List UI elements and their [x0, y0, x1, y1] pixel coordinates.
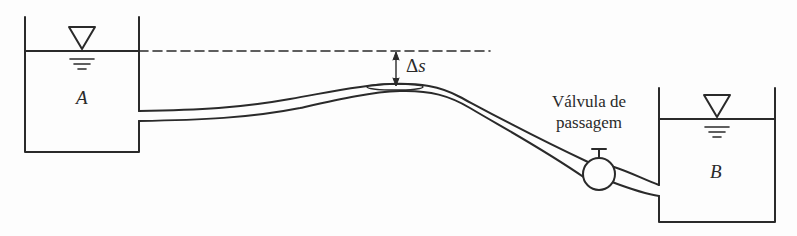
pipe-to-tank-b-upper	[614, 167, 659, 185]
tank-a-label: A	[76, 87, 88, 109]
delta-s-label: Δs	[406, 55, 426, 77]
siphon-diagram: A B Δs Válvula de passagem	[0, 0, 797, 236]
tank-b-wall	[659, 88, 775, 222]
crest-pocket	[367, 84, 423, 90]
tank-a-wall	[25, 17, 139, 152]
delta-symbol: Δ	[406, 55, 418, 76]
arrowhead-up-icon	[393, 52, 399, 60]
s-variable: s	[418, 55, 425, 76]
valve-body	[583, 158, 615, 190]
pipe-lower-wall	[139, 91, 585, 178]
tank-b-label: B	[710, 161, 722, 183]
diagram-drawing	[0, 0, 797, 236]
valve-label-line1: Válvula de	[552, 91, 626, 112]
valve-label-line2: passagem	[552, 112, 626, 133]
pipe-to-tank-b-lower	[612, 182, 659, 196]
valve-label: Válvula de passagem	[552, 91, 626, 133]
water-level-icon-a	[69, 27, 95, 49]
water-level-icon-b	[704, 95, 730, 117]
